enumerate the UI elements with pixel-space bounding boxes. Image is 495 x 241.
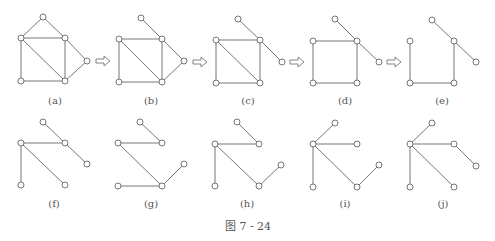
graph-node-rt [451, 141, 457, 147]
graph-node-fr [279, 59, 285, 65]
graph-edge [259, 165, 281, 186]
graph-node-lt [407, 38, 413, 44]
graph-node-rt [62, 35, 68, 41]
graph-node-top [138, 15, 144, 21]
graph-node-top [429, 17, 435, 23]
graph-transformation-figure: (a)(b)(c)(d)(e)(f)(g)(h)(i)(j) 图 7 - 24 [0, 0, 495, 241]
graph-node-fr [84, 58, 90, 64]
graph-node-lt [407, 141, 413, 147]
figure-canvas: (a)(b)(c)(d)(e)(f)(g)(h)(i)(j) 图 7 - 24 [0, 0, 495, 241]
graph-edge [432, 20, 454, 41]
graph-node-rt [354, 141, 360, 147]
graph-edge [454, 144, 476, 166]
graph-node-rt [159, 140, 165, 146]
graph-node-fr [181, 58, 187, 64]
graph-node-lt [310, 38, 316, 44]
graph-node-top [332, 120, 338, 126]
graph-node-fr [376, 59, 382, 65]
graph-node-top [235, 16, 241, 22]
graph-node-br [354, 184, 360, 190]
graph-node-br [62, 78, 68, 84]
graph-edge [141, 18, 162, 39]
graph-node-rt [257, 37, 263, 43]
panel-label: (c) [241, 95, 255, 106]
graph-node-top [137, 119, 143, 125]
panel-label: (b) [144, 95, 158, 106]
labels-layer: (a)(b)(c)(d)(e)(f)(g)(h)(i)(j) [48, 95, 449, 209]
right-arrow-icon [96, 56, 110, 66]
graph-edge [43, 17, 65, 38]
graph-edge [410, 144, 454, 187]
graph-node-fr [473, 163, 479, 169]
graph-edge [238, 19, 260, 40]
graph-edge [357, 165, 379, 187]
graph-edge [65, 143, 87, 164]
panel-label: (d) [338, 95, 352, 106]
graph-node-bl [310, 80, 316, 86]
graph-node-lt [212, 141, 218, 147]
graph-node-bl [213, 80, 219, 86]
graph-node-lt [213, 37, 219, 43]
graph-node-fr [376, 162, 382, 168]
graph-edge [162, 61, 184, 82]
graph-edge [410, 123, 432, 144]
graph-edge [335, 19, 357, 41]
graph-edge [43, 122, 65, 143]
graph-node-lt [310, 141, 316, 147]
graph-edge [162, 39, 184, 61]
graph-node-br [451, 80, 457, 86]
graph-node-lt [115, 140, 121, 146]
graph-node-lt [18, 140, 24, 146]
right-arrow-icon [193, 57, 207, 67]
graph-node-top [429, 120, 435, 126]
graph-node-rt [159, 36, 165, 42]
graph-node-rt [256, 141, 262, 147]
graph-node-br [159, 183, 165, 189]
graph-node-fr [181, 161, 187, 167]
graph-node-fr [278, 162, 284, 168]
graph-edge [65, 61, 87, 81]
graph-node-br [256, 183, 262, 189]
graph-node-br [62, 182, 68, 188]
graph-node-br [159, 79, 165, 85]
graph-node-lt [18, 35, 24, 41]
panel-label: (h) [240, 198, 254, 209]
right-arrow-icon [290, 57, 304, 67]
graph-edge [237, 122, 259, 144]
graph-node-lt [116, 36, 122, 42]
right-arrow-icon [387, 57, 401, 67]
graph-edge [215, 144, 259, 186]
graph-node-br [354, 80, 360, 86]
graph-node-rt [451, 38, 457, 44]
panel-label: (j) [438, 198, 449, 209]
graph-edge [118, 143, 162, 186]
graph-node-top [234, 119, 240, 125]
graph-node-rt [354, 38, 360, 44]
graph-node-br [451, 184, 457, 190]
graph-node-bl [18, 182, 24, 188]
panel-label: (i) [339, 198, 350, 209]
graph-edge [21, 143, 65, 185]
graph-edge [65, 38, 87, 61]
graph-node-top [40, 119, 46, 125]
graph-edge [357, 41, 379, 62]
graph-edge [454, 41, 476, 62]
graph-edge [260, 40, 282, 62]
graph-node-fr [84, 161, 90, 167]
graph-edge [119, 39, 162, 82]
panel-label: (e) [435, 95, 449, 106]
graph-edge [313, 144, 357, 187]
graph-edge [162, 164, 184, 186]
graph-node-top [40, 14, 46, 20]
graph-node-bl [310, 184, 316, 190]
graph-node-br [257, 80, 263, 86]
graph-node-bl [115, 183, 121, 189]
graph-node-bl [407, 80, 413, 86]
graph-edge [313, 123, 335, 144]
panel-label: (a) [48, 95, 62, 106]
graph-edge [21, 17, 43, 38]
graph-edge [216, 40, 260, 83]
graph-node-bl [407, 184, 413, 190]
panel-label: (f) [48, 198, 60, 209]
graph-edge [140, 122, 162, 143]
